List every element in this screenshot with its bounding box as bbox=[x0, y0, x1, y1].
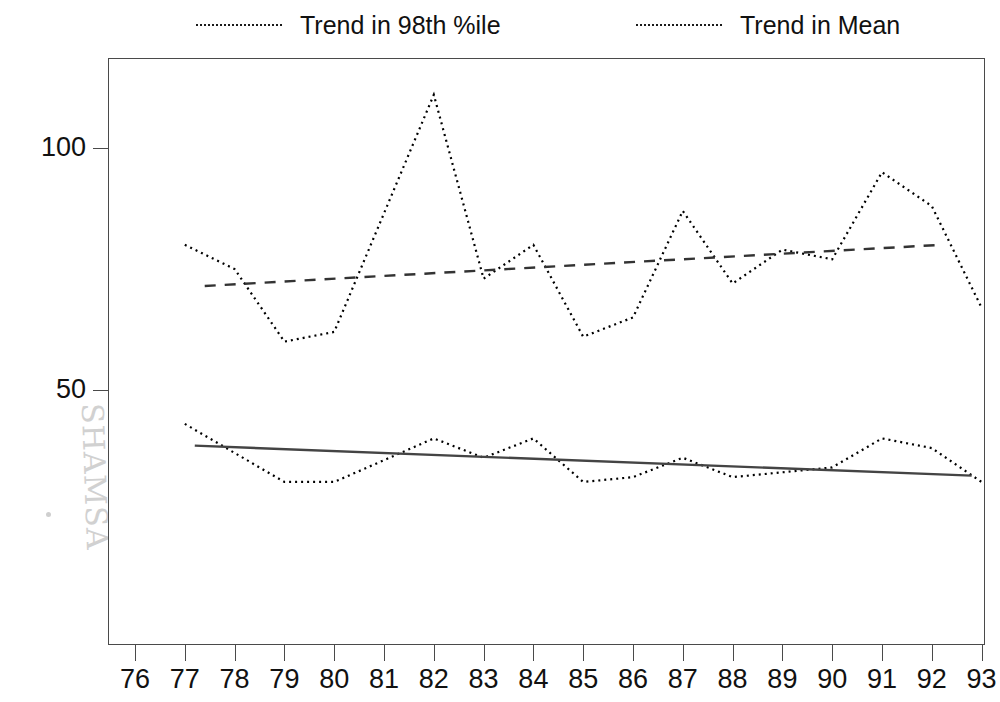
x-tick-84 bbox=[533, 645, 534, 661]
x-tick-87 bbox=[683, 645, 684, 661]
x-tick-label-86: 86 bbox=[605, 666, 661, 693]
trendline-mean bbox=[195, 446, 972, 476]
x-tick-label-87: 87 bbox=[655, 666, 711, 693]
legend-label-mean: Trend in Mean bbox=[740, 13, 900, 38]
plot-area bbox=[108, 58, 985, 645]
legend-label-98th-percentile: Trend in 98th %ile bbox=[300, 13, 501, 38]
x-tick-86 bbox=[633, 645, 634, 661]
watermark-dot bbox=[46, 512, 51, 517]
series-line-mean bbox=[185, 424, 982, 482]
x-tick-label-83: 83 bbox=[456, 666, 512, 693]
x-tick-label-82: 82 bbox=[406, 666, 462, 693]
x-tick-label-92: 92 bbox=[904, 666, 960, 693]
legend-sample-98th-percentile bbox=[196, 13, 282, 37]
x-tick-91 bbox=[882, 645, 883, 661]
x-tick-88 bbox=[733, 645, 734, 661]
x-tick-label-77: 77 bbox=[157, 666, 213, 693]
x-tick-81 bbox=[384, 645, 385, 661]
x-tick-83 bbox=[484, 645, 485, 661]
x-tick-label-88: 88 bbox=[705, 666, 761, 693]
x-tick-76 bbox=[135, 645, 136, 661]
x-tick-label-76: 76 bbox=[107, 666, 163, 693]
x-tick-79 bbox=[284, 645, 285, 661]
legend-entry-98th-percentile: Trend in 98th %ile bbox=[196, 4, 501, 46]
x-tick-82 bbox=[434, 645, 435, 661]
y-tick-label-100: 100 bbox=[0, 134, 86, 161]
x-tick-label-89: 89 bbox=[754, 666, 810, 693]
x-tick-label-81: 81 bbox=[356, 666, 412, 693]
x-tick-label-80: 80 bbox=[306, 666, 362, 693]
x-tick-label-93: 93 bbox=[954, 666, 1000, 693]
x-tick-78 bbox=[235, 645, 236, 661]
x-tick-label-90: 90 bbox=[804, 666, 860, 693]
legend-line-dotted bbox=[636, 24, 722, 26]
watermark-shamsa: SHAMSA bbox=[0, 402, 112, 471]
x-tick-77 bbox=[185, 645, 186, 661]
x-tick-93 bbox=[982, 645, 983, 661]
legend-sample-mean bbox=[636, 13, 722, 37]
legend-line-dotted bbox=[196, 24, 282, 26]
x-tick-92 bbox=[932, 645, 933, 661]
x-tick-label-84: 84 bbox=[505, 666, 561, 693]
y-tick-label-50: 50 bbox=[0, 376, 86, 403]
x-tick-label-78: 78 bbox=[207, 666, 263, 693]
x-tick-90 bbox=[832, 645, 833, 661]
y-tick-50 bbox=[93, 390, 108, 391]
chart-legend: Trend in 98th %ile Trend in Mean bbox=[0, 0, 995, 52]
x-tick-label-79: 79 bbox=[256, 666, 312, 693]
legend-entry-mean: Trend in Mean bbox=[636, 4, 900, 46]
x-tick-label-91: 91 bbox=[854, 666, 910, 693]
x-tick-89 bbox=[782, 645, 783, 661]
trendline-98th-percentile bbox=[205, 245, 942, 286]
plot-lines bbox=[108, 58, 985, 645]
y-tick-100 bbox=[93, 148, 108, 149]
x-tick-80 bbox=[334, 645, 335, 661]
series-line-98th-percentile bbox=[185, 95, 982, 342]
x-tick-label-85: 85 bbox=[555, 666, 611, 693]
x-tick-85 bbox=[583, 645, 584, 661]
